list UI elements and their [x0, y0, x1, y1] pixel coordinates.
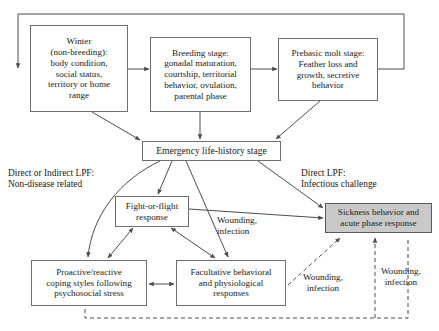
node-emergency-label: Emergency life-history stage [154, 145, 269, 156]
edge-label-wounding-infection-center: Wounding, infection [217, 215, 257, 237]
annotation-right-pathway: Direct LPF: Infectious challenge [301, 168, 377, 191]
node-molt-label: Prebasic molt stage: Feather loss and gr… [289, 48, 366, 91]
node-sickness-behavior-acute-phase-response[interactable]: Sickness behavior and acute phase respon… [325, 203, 432, 233]
node-proactive-reactive-coping-styles[interactable]: Proactive/reactive coping styles followi… [31, 260, 147, 306]
node-emergency-life-history-stage[interactable]: Emergency life-history stage [142, 141, 281, 161]
node-winter-label: Winter (non-breeding): body condition, s… [46, 36, 112, 100]
life-history-stage-diagram: Winter (non-breeding): body condition, s… [0, 0, 439, 331]
node-prebasic-molt-stage[interactable]: Prebasic molt stage: Feather loss and gr… [278, 38, 378, 101]
node-breeding-label: Breeding stage: gonadal maturation, cour… [162, 48, 239, 102]
node-facultative-behavioral-physiological-responses[interactable]: Facultative behavioral and physiological… [176, 260, 286, 306]
edge-winter-to-emergency [92, 112, 140, 140]
edge-label-wounding-infection-right: Wounding, infection [381, 266, 421, 288]
node-facultative-label: Facultative behavioral and physiological… [188, 267, 273, 299]
node-winter-stage[interactable]: Winter (non-breeding): body condition, s… [30, 25, 128, 112]
edge-emergency-to-fight [158, 161, 172, 194]
node-sickness-label: Sickness behavior and acute phase respon… [336, 207, 421, 228]
node-coping-label: Proactive/reactive coping styles followi… [44, 267, 133, 299]
edge-fight-coping-bidirectional [108, 228, 133, 258]
node-fight-label: Fight-or-flight response [124, 201, 180, 222]
edge-label-wounding-infection-lower: Wounding, infection [303, 272, 343, 294]
edge-molt-to-emergency [276, 101, 320, 139]
node-breeding-stage[interactable]: Breeding stage: gonadal maturation, cour… [150, 37, 251, 112]
edge-fight-facultative-bidirectional [171, 228, 215, 258]
annotation-left-pathway: Direct or Indirect LPF: Non-disease rela… [8, 168, 94, 191]
node-fight-or-flight-response[interactable]: Fight-or-flight response [115, 196, 189, 227]
